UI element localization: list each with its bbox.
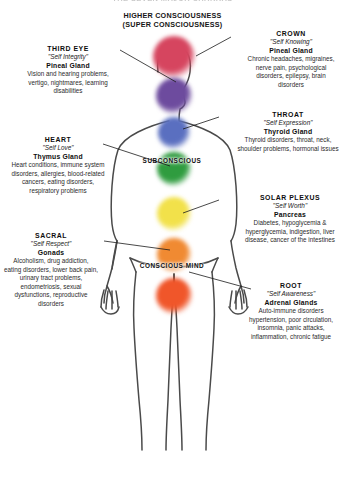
chakra-gland-third-eye: Pineal Gland [18, 61, 118, 70]
chakra-block-third-eye: THIRD EYE"Self Integrity"Pineal GlandVis… [18, 44, 118, 96]
page-title: HIGHER CONSCIOUSNESS (SUPER CONSCIOUSNES… [0, 11, 345, 29]
chakra-name-crown: CROWN [243, 29, 339, 38]
chakra-gland-solar-plexus: Pancreas [240, 210, 340, 219]
chakra-name-heart: HEART [10, 135, 106, 144]
chakra-motto-heart: "Self Love" [10, 144, 106, 152]
chakra-orb-solar-plexus[interactable] [157, 197, 191, 231]
chakra-motto-sacral: "Self Respect" [4, 240, 98, 248]
chakra-block-heart: HEART"Self Love"Thymus GlandHeart condit… [10, 135, 106, 195]
chakra-block-solar-plexus: SOLAR PLEXUS"Self Worth"PancreasDiabetes… [240, 193, 340, 245]
chakra-issues-crown: Chronic headaches, migraines, nerve pain… [243, 55, 339, 89]
chakra-issues-heart: Heart conditions, immune system disorder… [10, 161, 106, 195]
chakra-motto-throat: "Self Expression" [236, 119, 340, 127]
chakra-gland-root: Adrenal Glands [240, 298, 342, 307]
chakra-motto-crown: "Self Knowing" [243, 38, 339, 46]
page-title-line1: HIGHER CONSCIOUSNESS [0, 11, 345, 20]
chakra-gland-sacral: Gonads [4, 248, 98, 257]
chakra-issues-solar-plexus: Diabetes, hypoglycemia & hyperglycemia, … [240, 219, 340, 245]
clipped-title: THE SEVEN MAJOR CHAKRAS [0, 0, 345, 3]
chakra-name-throat: THROAT [236, 110, 340, 119]
label-conscious-mind: CONSCIOUS MIND [140, 262, 205, 269]
chakra-motto-root: "Self Awareness" [240, 290, 342, 298]
chakra-name-root: ROOT [240, 281, 342, 290]
chakra-block-sacral: SACRAL"Self Respect"GonadsAlcoholism, dr… [4, 231, 98, 308]
chakra-issues-root: Auto-immune disorders hypertension, poor… [240, 307, 342, 341]
chakra-motto-third-eye: "Self Integrity" [18, 53, 118, 61]
chakra-motto-solar-plexus: "Self Worth" [240, 202, 340, 210]
chakra-orb-root[interactable] [156, 278, 192, 314]
chakra-name-third-eye: THIRD EYE [18, 44, 118, 53]
chakra-gland-heart: Thymus Gland [10, 152, 106, 161]
chakra-name-sacral: SACRAL [4, 231, 98, 240]
chakra-orb-throat[interactable] [158, 117, 190, 149]
chakra-name-solar-plexus: SOLAR PLEXUS [240, 193, 340, 202]
chakra-gland-crown: Pineal Gland [243, 46, 339, 55]
chakra-block-crown: CROWN"Self Knowing"Pineal GlandChronic h… [243, 29, 339, 89]
label-subconscious: SUBCONSCIOUS [143, 157, 202, 164]
chakra-orb-crown[interactable] [153, 36, 195, 78]
chakra-issues-sacral: Alcoholism, drug addiction, eating disor… [4, 257, 98, 308]
chakra-issues-throat: Thyroid disorders, throat, neck, shoulde… [236, 136, 340, 153]
chakra-diagram: THE SEVEN MAJOR CHAKRAS HIGHER CONSCIOUS… [0, 0, 345, 497]
chakra-orb-third-eye[interactable] [156, 78, 192, 114]
chakra-gland-throat: Thyroid Gland [236, 127, 340, 136]
chakra-block-root: ROOT"Self Awareness"Adrenal GlandsAuto-i… [240, 281, 342, 341]
chakra-issues-third-eye: Vision and hearing problems, vertigo, ni… [18, 70, 118, 96]
chakra-block-throat: THROAT"Self Expression"Thyroid GlandThyr… [236, 110, 340, 153]
